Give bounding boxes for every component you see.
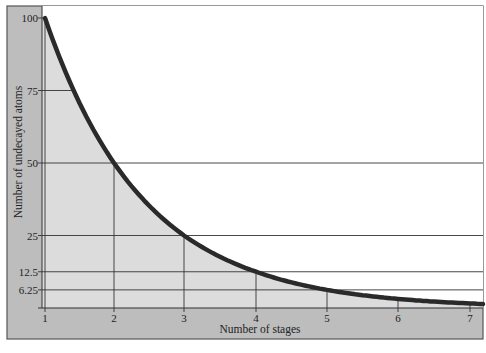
y-tick-label: 100	[22, 12, 39, 24]
y-tick-label: 12.5	[19, 266, 39, 278]
y-axis-title: Number of undecayed atoms	[12, 85, 25, 218]
y-tick-label: 75	[27, 85, 39, 97]
x-tick-label: 1	[42, 312, 48, 324]
x-tick-label: 5	[324, 312, 330, 324]
x-tick-label: 6	[395, 312, 401, 324]
x-tick-label: 3	[181, 312, 187, 324]
y-tick-label: 6.25	[19, 284, 39, 296]
half-life-decay-chart: 10075502512.56.25 1234567 Number of stag…	[0, 0, 486, 353]
x-axis-title: Number of stages	[219, 323, 301, 336]
y-tick-label: 50	[27, 157, 39, 169]
x-tick-label: 7	[467, 312, 473, 324]
y-tick-label: 25	[27, 230, 39, 242]
x-tick-label: 2	[111, 312, 117, 324]
